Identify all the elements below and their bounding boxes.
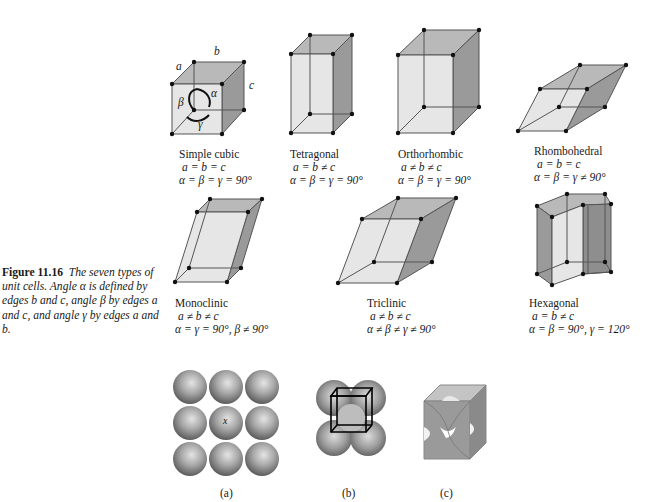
cell-edges: a = b ≠ c [529,310,630,323]
cell-angles: α = β = γ = 90° [179,174,252,187]
tetragonal-label: Tetragonal a = b ≠ c α = β = γ = 90° [290,148,363,187]
cell-angles: α = β = γ ≠ 90° [534,171,605,184]
cell-angles: α = β = 90°, γ = 120° [529,323,630,336]
orthorhombic-label: Orthorhombic a ≠ b ≠ c α = β = γ = 90° [398,148,471,187]
cell-edges: a ≠ b ≠ c [175,310,268,323]
cell-name: Monoclinic [175,297,268,310]
edge-label-c: c [249,79,254,91]
edge-label-a: a [176,60,182,72]
angle-label-gamma: γ [198,118,203,130]
center-marker-x: x [223,415,227,426]
cell-name: Orthorhombic [398,148,471,161]
figure-a-label: (a) [220,487,233,499]
angle-label-alpha: α [211,87,217,99]
cell-angles: α = β = γ = 90° [398,174,471,187]
cell-edges: a = b ≠ c [290,161,363,174]
angle-label-beta: β [178,96,184,108]
cell-edges: a ≠ b ≠ c [398,161,471,174]
cell-edges: a = b = c [534,158,605,171]
orthorhombic-diagram [395,25,495,145]
cell-name: Simple cubic [179,148,252,161]
triclinic-diagram [335,193,460,288]
figure-caption: Figure 11.16 The seven types of unit cel… [2,266,164,337]
tetragonal-diagram [288,30,368,150]
cell-edges: a ≠ b ≠ c [367,310,436,323]
cell-name: Rhombohedral [534,145,605,158]
cell-name: Hexagonal [529,297,630,310]
monoclinic-label: Monoclinic a ≠ b ≠ c α = γ = 90°, β ≠ 90… [175,297,268,336]
sphere-grid-figure-a [170,370,285,480]
sphere-cube-figure-b [308,378,398,468]
cut-cube-figure-c [418,383,493,463]
cell-edges: a = b = c [179,161,252,174]
simple-cubic-label: Simple cubic a = b = c α = β = γ = 90° [179,148,252,187]
triclinic-label: Triclinic a ≠ b ≠ c α ≠ β ≠ γ ≠ 90° [367,297,436,336]
cell-name: Tetragonal [290,148,363,161]
rhombohedral-diagram [515,60,630,140]
cell-angles: α ≠ β ≠ γ ≠ 90° [367,323,436,336]
edge-label-b: b [214,45,220,57]
cell-name: Triclinic [367,297,436,310]
hexagonal-label: Hexagonal a = b ≠ c α = β = 90°, γ = 120… [529,297,630,336]
monoclinic-diagram [170,195,270,290]
figure-c-label: (c) [440,487,453,499]
figure-number: Figure 11.16 [2,266,63,279]
cell-angles: α = γ = 90°, β ≠ 90° [175,323,268,336]
hexagonal-diagram [528,190,618,290]
rhombohedral-label: Rhombohedral a = b = c α = β = γ ≠ 90° [534,145,605,184]
cell-angles: α = β = γ = 90° [290,174,363,187]
figure-b-label: (b) [342,487,355,499]
